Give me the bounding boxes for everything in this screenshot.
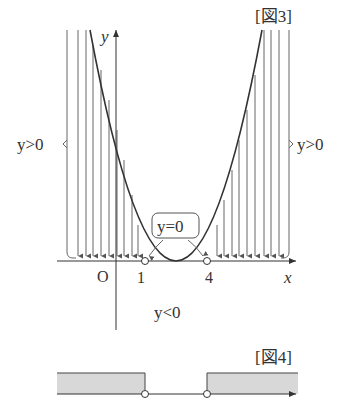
right-brace-tick [289,140,293,148]
diagram-canvas: [図3] y=0 y x O 1 [0,0,343,402]
origin-label: O [97,268,109,285]
left-bracket [67,30,76,258]
open-point-1 [142,391,149,398]
left-projection-lines [78,30,138,256]
right-region-label: y>0 [297,135,324,154]
x-axis-label: x [283,268,292,287]
below-label: y<0 [154,303,181,322]
right-bracket [281,30,289,258]
right-projection-lines [217,30,279,256]
shaded-region-left [57,373,145,394]
y-axis-label: y [99,27,109,46]
left-region-label: y>0 [17,135,44,154]
figure3-caption: [図3] [255,7,292,26]
root2-label: 4 [205,269,213,286]
roots-label: y=0 [157,217,184,236]
left-brace-tick [63,140,67,148]
root1-label: 1 [137,269,145,286]
root-point-1 [142,258,149,265]
root-point-4 [204,258,211,265]
figure4-caption: [図4] [255,348,292,367]
shaded-region-right [207,373,298,394]
open-point-4 [204,391,211,398]
